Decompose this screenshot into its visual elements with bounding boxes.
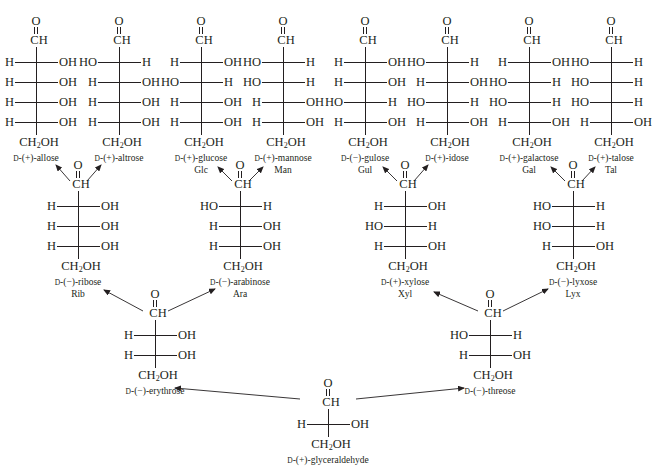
config-prefix: D <box>95 154 100 163</box>
carbonyl-oxygen: O <box>196 14 205 28</box>
oh-text: OH <box>410 259 428 273</box>
config-prefix: D <box>55 278 60 287</box>
stereocenter-bond <box>383 246 427 247</box>
rotation-sign: (+) <box>22 153 34 163</box>
right-substituent: OH <box>177 348 196 362</box>
right-substituent: OH <box>387 115 406 129</box>
rotation-sign: (+) <box>296 455 308 465</box>
left-substituent: H <box>374 199 384 213</box>
right-substituent: OH <box>58 55 77 69</box>
name-text: -galactose <box>520 153 559 163</box>
sugar-name: D-(+)-allose <box>13 151 59 166</box>
right-substituent: H <box>387 95 397 109</box>
terminal-ch2oh: CH2OH <box>61 259 100 273</box>
left-substituent: H <box>47 239 57 253</box>
stereocenter-bond <box>425 102 469 103</box>
ch-text: CH <box>512 135 529 149</box>
stereocenter-bond <box>589 82 633 83</box>
name-text: -allose <box>33 153 58 163</box>
right-substituent: H <box>141 55 151 69</box>
stereocenter-bond <box>218 226 262 227</box>
backbone-bond <box>155 320 156 373</box>
left-substituent: H <box>209 219 219 233</box>
rotation-sign: (+) <box>263 153 275 163</box>
rotation-sign: (−) <box>557 277 569 287</box>
right-substituent: H <box>633 95 643 109</box>
ch-text: CH <box>430 135 447 149</box>
stereocenter-bond <box>97 102 141 103</box>
oh-text: OH <box>370 135 388 149</box>
oh-text: OH <box>124 135 142 149</box>
stereocenter-bond <box>468 355 512 356</box>
stereocenter-bond <box>14 102 58 103</box>
ch-text: CH <box>388 259 405 273</box>
left-substituent: H <box>88 95 98 109</box>
right-substituent: H <box>551 75 561 89</box>
backbone-bond <box>405 191 406 264</box>
right-substituent: OH <box>100 199 119 213</box>
carbonyl-oxygen: O <box>606 14 615 28</box>
rotation-sign: (+) <box>508 153 520 163</box>
right-substituent: OH <box>551 55 570 69</box>
oh-text: OH <box>452 135 470 149</box>
right-substituent: H <box>633 75 643 89</box>
sugar-name: D-(+)-glyceraldehyde <box>287 453 368 468</box>
carbonyl-oxygen: O <box>31 14 40 28</box>
left-substituent: H <box>252 95 262 109</box>
left-substituent: HO <box>161 75 180 89</box>
aldehyde-ch: CH <box>441 33 458 47</box>
arrow-lyxose-to-galactose <box>551 167 565 181</box>
right-substituent: OH <box>633 115 652 129</box>
left-substituent: H <box>47 199 57 213</box>
stereocenter-bond <box>551 226 595 227</box>
aldehyde-ch: CH <box>72 177 89 191</box>
right-substituent: H <box>633 55 643 69</box>
arrow-arabinose-to-glucose <box>218 167 232 181</box>
ch-text: CH <box>473 368 490 382</box>
right-substituent: OH <box>223 115 242 129</box>
ch-text: CH <box>102 135 119 149</box>
sugar-abbreviation: Gal <box>522 163 536 177</box>
config-prefix: D <box>588 154 593 163</box>
name-text: -ribose <box>75 277 101 287</box>
arrow-threose-to-xylose <box>434 292 478 311</box>
left-substituent: HO <box>407 95 426 109</box>
left-substituent: H <box>88 115 98 129</box>
right-substituent: OH <box>595 239 614 253</box>
ch-text: CH <box>223 259 240 273</box>
terminal-ch2oh: CH2OH <box>594 135 633 149</box>
stereocenter-bond <box>56 246 100 247</box>
oh-text: OH <box>245 259 263 273</box>
terminal-ch2oh: CH2OH <box>311 437 350 451</box>
config-prefix: D <box>549 278 554 287</box>
backbone-bond <box>447 47 448 140</box>
left-substituent: H <box>580 115 590 129</box>
ch-text: CH <box>184 135 201 149</box>
arrow-erythrose-to-ribose <box>104 290 143 311</box>
stereocenter-bond <box>14 122 58 123</box>
right-substituent: OH <box>427 199 446 213</box>
right-substituent: H <box>427 219 437 233</box>
stereocenter-bond <box>97 122 141 123</box>
aldehyde-ch: CH <box>195 33 212 47</box>
right-substituent: OH <box>305 95 324 109</box>
left-substituent: H <box>5 115 15 129</box>
right-substituent: OH <box>100 219 119 233</box>
carbonyl-oxygen: O <box>524 14 533 28</box>
left-substituent: H <box>5 75 15 89</box>
stereocenter-bond <box>261 62 305 63</box>
aldose-family-tree-diagram: OCHHOHHOHHOHHOHCH2OHD-(+)-alloseOCHHOHHO… <box>0 0 652 471</box>
rotation-sign: (−) <box>349 153 361 163</box>
aldehyde-ch: CH <box>234 177 251 191</box>
right-substituent: OH <box>387 75 406 89</box>
right-substituent: OH <box>387 55 406 69</box>
carbonyl-oxygen: O <box>400 158 409 172</box>
right-substituent: OH <box>100 239 119 253</box>
left-substituent: H <box>498 55 508 69</box>
left-substituent: HO <box>571 95 590 109</box>
stereocenter-bond <box>14 82 58 83</box>
backbone-bond <box>119 47 120 140</box>
left-substituent: HO <box>325 95 344 109</box>
aldehyde-ch: CH <box>30 33 47 47</box>
left-substituent: HO <box>365 219 384 233</box>
